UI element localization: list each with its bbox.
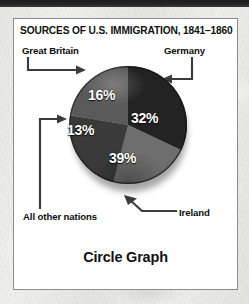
callout-label-all-other-nations: All other nations <box>23 211 97 222</box>
page-background: SOURCES OF U.S. IMMIGRATION, 1841–1860 <box>0 0 249 304</box>
top-dark-band <box>0 0 249 7</box>
page-title: SOURCES OF U.S. IMMIGRATION, 1841–1860 <box>20 25 233 36</box>
chart-panel: SOURCES OF U.S. IMMIGRATION, 1841–1860 <box>13 18 238 290</box>
callout-label-great-britain: Great Britain <box>22 45 79 56</box>
leader-all-other-nations <box>40 115 67 210</box>
slice-value-all-other-nations: 13% <box>67 122 94 138</box>
slice-value-great-britain: 16% <box>88 87 115 103</box>
callout-label-germany: Germany <box>164 45 205 56</box>
figure-caption: Circle Graph <box>14 249 237 265</box>
callout-label-ireland: Ireland <box>179 207 210 218</box>
leader-ireland <box>124 195 177 211</box>
slice-value-germany: 32% <box>131 110 158 126</box>
pie-chart: 32% 39% 13% 16% <box>69 66 187 192</box>
slice-value-ireland: 39% <box>109 150 136 166</box>
